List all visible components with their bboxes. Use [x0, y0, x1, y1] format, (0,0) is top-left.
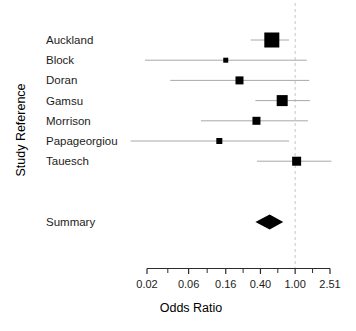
study-label: Gamsu [46, 95, 83, 107]
effect-square [277, 95, 288, 106]
x-tick-label: 0.16 [215, 278, 236, 290]
effect-square [223, 58, 228, 63]
study-label: Morrison [46, 115, 91, 127]
x-tick-label: 1.00 [284, 278, 305, 290]
effect-square [235, 76, 243, 84]
forest-plot-figure: AucklandBlockDoranGamsuMorrisonPapageorg… [0, 0, 356, 331]
effect-square [216, 138, 222, 144]
x-tick-label: 0.06 [178, 278, 199, 290]
study-label: Auckland [46, 34, 93, 46]
effect-square [292, 157, 301, 166]
effect-square [264, 33, 279, 48]
study-label: Papageorgiou [46, 135, 118, 147]
x-axis-title: Odds Ratio [160, 301, 223, 315]
x-tick-label: 0.40 [250, 278, 271, 290]
study-label: Tauesch [46, 155, 89, 167]
study-label: Block [46, 54, 74, 66]
x-tick-label: 0.02 [136, 278, 157, 290]
effect-square [252, 117, 260, 125]
summary-label: Summary [46, 216, 95, 228]
y-axis-title: Study Reference [14, 83, 28, 176]
summary-diamond [255, 215, 283, 230]
x-tick-label: 2.51 [319, 278, 340, 290]
forest-plot-canvas: AucklandBlockDoranGamsuMorrisonPapageorg… [0, 0, 356, 331]
study-label: Doran [46, 74, 77, 86]
